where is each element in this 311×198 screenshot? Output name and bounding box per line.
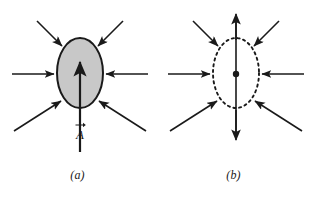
- inward-arrow-lower-left: [14, 101, 61, 131]
- figure-container: A (a): [0, 0, 311, 198]
- inward-arrow-lower-right: [255, 101, 302, 131]
- center-dot: [233, 71, 239, 77]
- panel-a: A (a): [0, 0, 155, 198]
- inward-arrow-lower-right: [99, 101, 146, 131]
- inward-arrow-upper-right: [254, 21, 279, 46]
- inward-arrow-upper-right: [98, 21, 123, 46]
- inward-arrow-upper-left: [193, 21, 218, 46]
- inward-arrow-upper-left: [37, 21, 62, 46]
- inward-arrow-lower-left: [170, 101, 217, 131]
- area-vector-symbol: A: [76, 127, 84, 142]
- panel-a-caption: (a): [0, 168, 155, 183]
- area-vector-label: A: [76, 128, 84, 141]
- panel-b: A′ Wd (b): [156, 0, 311, 198]
- panel-b-caption: (b): [156, 168, 311, 183]
- vector-arrow-accent-icon: [75, 121, 86, 127]
